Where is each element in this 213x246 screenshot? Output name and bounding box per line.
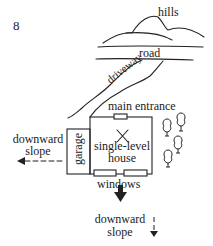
- house-label-line2: house: [92, 152, 152, 165]
- left-slope-arrowhead: [17, 157, 25, 165]
- figure-number: 8: [13, 19, 20, 32]
- tree-icon: [163, 119, 171, 136]
- left-slope-label-line2: slope: [8, 145, 68, 158]
- hills-inner-ridge: [126, 33, 172, 40]
- bottom-slope-label-line2: slope: [90, 226, 150, 239]
- garage-label: garage: [72, 133, 85, 165]
- trees: [163, 113, 185, 167]
- site-plan-drawing: [0, 0, 213, 246]
- tree-icon: [177, 113, 185, 131]
- main-entrance-label: main entrance: [108, 100, 176, 113]
- hills-label: hills: [158, 6, 179, 19]
- tree-icon: [164, 150, 172, 167]
- window-right: [124, 170, 147, 176]
- tree-icon: [174, 136, 182, 153]
- window-left: [94, 170, 116, 176]
- hills-outline: [103, 16, 204, 43]
- small-down-arrow-head: [150, 231, 158, 237]
- bottom-big-arrow-head: [114, 192, 127, 202]
- windows-label: windows: [97, 178, 140, 191]
- main-entrance-door: [114, 114, 127, 119]
